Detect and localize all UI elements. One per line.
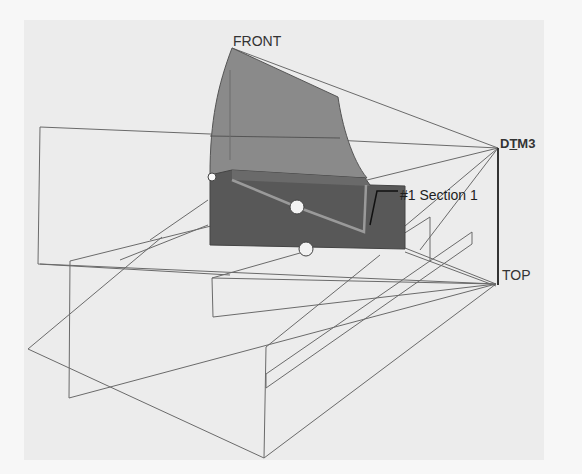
graphics-window[interactable]: FRONT DTM3 TOP #1 Section 1	[0, 0, 582, 474]
edge-handle-left[interactable]	[208, 173, 216, 181]
drag-handle-bottom[interactable]	[299, 242, 313, 256]
section-label[interactable]: #1 Section 1	[400, 188, 478, 202]
model-view-canvas[interactable]	[0, 0, 582, 474]
top-plane-label[interactable]: TOP	[502, 268, 531, 282]
dtm3-label-suffix: M3	[517, 136, 535, 151]
drag-handle-center[interactable]	[290, 200, 304, 214]
dtm3-label-prefix: D	[500, 136, 509, 151]
front-plane-label[interactable]: FRONT	[233, 34, 281, 48]
dtm3-plane-label[interactable]: DTM3	[500, 137, 535, 150]
